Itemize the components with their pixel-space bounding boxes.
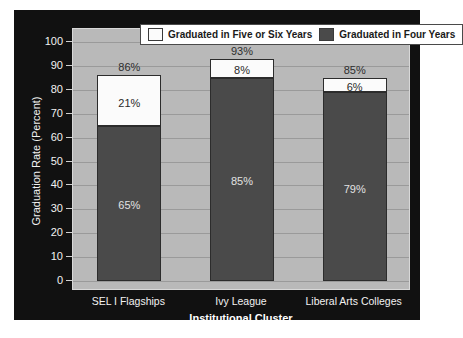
y-tick-label: 0 xyxy=(57,274,63,286)
y-tick-mark xyxy=(66,65,72,66)
y-tick-mark xyxy=(66,89,72,90)
legend-item-five-or-six-years: Graduated in Five or Six Years xyxy=(148,28,312,41)
y-tick-label: 60 xyxy=(51,131,63,143)
y-tick-label: 100 xyxy=(45,35,63,47)
bar-group: 85%8%93% xyxy=(210,42,274,281)
bar-total-label: 85% xyxy=(323,64,387,76)
legend-swatch-five-or-six-years xyxy=(148,28,163,41)
x-tick-label: Ivy League xyxy=(185,295,298,307)
bar-group: 65%21%86% xyxy=(97,42,161,281)
y-tick-mark xyxy=(66,208,72,209)
y-tick-mark xyxy=(66,41,72,42)
bar-value-label-five-or-six-years: 6% xyxy=(323,81,387,93)
y-tick-mark xyxy=(66,184,72,185)
y-tick-label: 90 xyxy=(51,59,63,71)
x-tick-label: Liberal Arts Colleges xyxy=(297,295,410,307)
y-tick-mark xyxy=(66,256,72,257)
axes-region: 65%21%86%85%8%93%79%6%85% xyxy=(73,42,409,281)
y-tick-label: 40 xyxy=(51,178,63,190)
x-tick-label: SEL I Flagships xyxy=(72,295,185,307)
y-tick-label: 30 xyxy=(51,202,63,214)
legend-label-four-years: Graduated in Four Years xyxy=(339,29,455,40)
y-tick-label: 70 xyxy=(51,107,63,119)
bar-group: 79%6%85% xyxy=(323,42,387,281)
y-tick-label: 20 xyxy=(51,226,63,238)
y-tick-mark xyxy=(66,280,72,281)
bar-total-label: 93% xyxy=(210,45,274,57)
y-tick-mark xyxy=(66,232,72,233)
gridline xyxy=(73,281,409,282)
bar-value-label-five-or-six-years: 21% xyxy=(97,97,161,109)
legend-swatch-four-years xyxy=(319,28,334,41)
legend-item-four-years: Graduated in Four Years xyxy=(319,28,455,41)
x-axis-title: Institutional Cluster xyxy=(72,312,410,324)
y-tick-mark xyxy=(66,161,72,162)
bar-value-label-four-years: 65% xyxy=(97,199,161,211)
plot-area: 65%21%86%85%8%93%79%6%85% xyxy=(72,28,410,290)
y-tick-mark xyxy=(66,137,72,138)
y-tick-label: 50 xyxy=(51,155,63,167)
bar-value-label-four-years: 85% xyxy=(210,175,274,187)
y-tick-label: 10 xyxy=(51,250,63,262)
bar-value-label-four-years: 79% xyxy=(323,183,387,195)
y-axis-title: Graduation Rate (Percent) xyxy=(30,96,42,225)
bar-total-label: 86% xyxy=(97,61,161,73)
chart-legend: Graduated in Five or Six Years Graduated… xyxy=(140,24,463,45)
y-tick-label: 80 xyxy=(51,83,63,95)
y-tick-mark xyxy=(66,113,72,114)
bar-value-label-five-or-six-years: 8% xyxy=(210,64,274,76)
legend-label-five-or-six-years: Graduated in Five or Six Years xyxy=(168,29,312,40)
chart-panel: Graduation Rate (Percent) 65%21%86%85%8%… xyxy=(14,10,420,320)
